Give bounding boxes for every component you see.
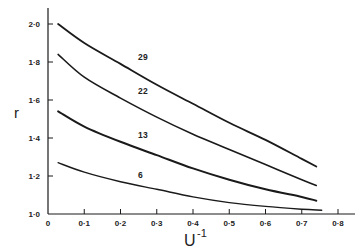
curve-label-29: 29 [138,52,148,62]
x-axis-title-superscript: -1 [197,227,207,239]
y-tick-label: 1·2 [28,172,40,181]
x-tick-label: 0·1 [78,219,90,228]
curve-29 [58,24,316,167]
y-axis-title: r [14,104,19,121]
y-tick-label: 1·4 [28,134,40,143]
x-tick-label: 0·7 [296,219,308,228]
curve-13 [58,111,316,200]
axes: 1·01·21·41·61·82·000·10·20·30·40·50·60·7… [28,8,355,228]
y-tick-label: 1·0 [28,210,40,219]
x-tick-label: 0·5 [223,219,235,228]
chart: 1·01·21·41·61·82·000·10·20·30·40·50·60·7… [0,0,363,249]
x-axis-title: U [184,232,196,249]
curve-6 [58,163,322,211]
x-tick-label: 0·3 [151,219,163,228]
curve-label-13: 13 [138,130,148,140]
labels: rU-12922136 [14,52,207,249]
y-tick-label: 2·0 [28,20,40,29]
y-tick-label: 1·8 [28,58,40,67]
curves [58,24,322,210]
x-tick-label: 0·8 [332,219,344,228]
curve-label-22: 22 [138,86,148,96]
y-tick-label: 1·6 [28,96,40,105]
x-tick-label: 0·2 [115,219,127,228]
x-tick-label: 0 [46,219,51,228]
curve-label-6: 6 [138,170,143,180]
x-tick-label: 0·6 [260,219,272,228]
